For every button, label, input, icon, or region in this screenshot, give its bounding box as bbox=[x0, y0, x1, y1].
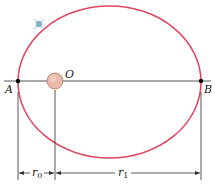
label-A: A bbox=[4, 83, 13, 96]
planet-icon bbox=[34, 19, 44, 29]
label-B: B bbox=[203, 83, 212, 96]
point-A bbox=[16, 79, 20, 83]
orbit-ellipse bbox=[18, 6, 201, 158]
orbit-diagram: A B O r0 r1 bbox=[0, 0, 215, 184]
sun-highlight bbox=[50, 75, 57, 82]
point-B bbox=[199, 79, 203, 83]
label-r1: r1 bbox=[118, 166, 128, 180]
dimension-r1: r1 bbox=[56, 166, 200, 180]
label-O: O bbox=[65, 68, 74, 81]
label-r0: r0 bbox=[32, 166, 42, 180]
dimension-r0: r0 bbox=[19, 166, 54, 180]
